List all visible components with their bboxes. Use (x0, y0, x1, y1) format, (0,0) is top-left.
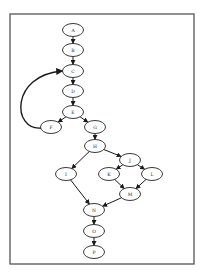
node-label: C (71, 69, 75, 74)
node-label: E (71, 110, 74, 115)
node-a: A (63, 24, 84, 37)
node-label: I (65, 172, 67, 177)
node-n: N (84, 204, 105, 217)
node-i: I (56, 168, 77, 181)
node-label: D (71, 89, 75, 94)
node-b: B (63, 44, 84, 57)
node-label: N (92, 208, 96, 213)
node-d: D (63, 85, 84, 98)
node-c: C (63, 65, 84, 78)
node-label: O (92, 229, 96, 234)
node-g: G (85, 121, 106, 134)
node-m: M (120, 188, 141, 201)
node-f: F (41, 121, 62, 134)
node-j: J (120, 154, 141, 167)
node-e: E (63, 106, 84, 119)
node-label: M (128, 192, 133, 197)
node-label: F (49, 125, 52, 130)
node-k: K (99, 168, 120, 181)
node-label: J (128, 158, 131, 163)
node-label: L (151, 172, 154, 177)
node-p: P (84, 246, 105, 259)
control-flow-graph: ABCDEFGHIJKLMNOP (0, 0, 205, 280)
node-h: H (85, 140, 106, 153)
node-label: P (92, 250, 95, 255)
node-label: H (93, 144, 97, 149)
node-o: O (84, 225, 105, 238)
node-label: G (93, 125, 97, 130)
node-l: L (142, 168, 163, 181)
